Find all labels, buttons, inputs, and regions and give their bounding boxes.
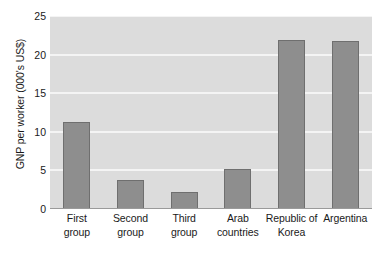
bars-group <box>50 16 372 209</box>
y-tick-label: 0 <box>16 204 46 214</box>
bar <box>171 192 198 209</box>
bar <box>117 180 144 209</box>
bar <box>224 169 251 209</box>
x-tick-label-line: Arab <box>211 212 265 226</box>
x-tick-label-line: group <box>104 226 158 240</box>
bar-chart: GNP per worker (000's US$) 0510152025 Fi… <box>0 0 387 254</box>
x-tick-label-line: Second <box>104 212 158 226</box>
x-tick-label-line: Third <box>157 212 211 226</box>
y-tick-label: 15 <box>16 88 46 98</box>
x-tick-label-line: group <box>157 226 211 240</box>
y-tick-label: 20 <box>16 50 46 60</box>
x-axis-line <box>50 208 372 209</box>
y-tick-label: 5 <box>16 165 46 175</box>
y-tick-label: 10 <box>16 127 46 137</box>
y-axis-tick-labels: 0510152025 <box>16 0 46 254</box>
bar <box>63 122 90 209</box>
plot-area <box>50 16 372 209</box>
x-tick-label-line: Republic of <box>265 212 319 226</box>
x-axis-tick-labels: FirstgroupSecondgroupThirdgroupArabcount… <box>50 212 372 252</box>
y-tick-label: 25 <box>16 11 46 21</box>
x-tick-label-line: Korea <box>265 226 319 240</box>
x-tick-label: Secondgroup <box>104 212 158 239</box>
bar <box>278 40 305 209</box>
x-tick-label-line: First <box>50 212 104 226</box>
x-tick-label-line: Argentina <box>318 212 372 226</box>
x-tick-label-line: countries <box>211 226 265 240</box>
bar <box>332 41 359 209</box>
x-tick-label: Republic ofKorea <box>265 212 319 239</box>
x-tick-label: Thirdgroup <box>157 212 211 239</box>
x-tick-label: Arabcountries <box>211 212 265 239</box>
x-tick-label: Argentina <box>318 212 372 226</box>
x-tick-label: Firstgroup <box>50 212 104 239</box>
x-tick-label-line: group <box>50 226 104 240</box>
